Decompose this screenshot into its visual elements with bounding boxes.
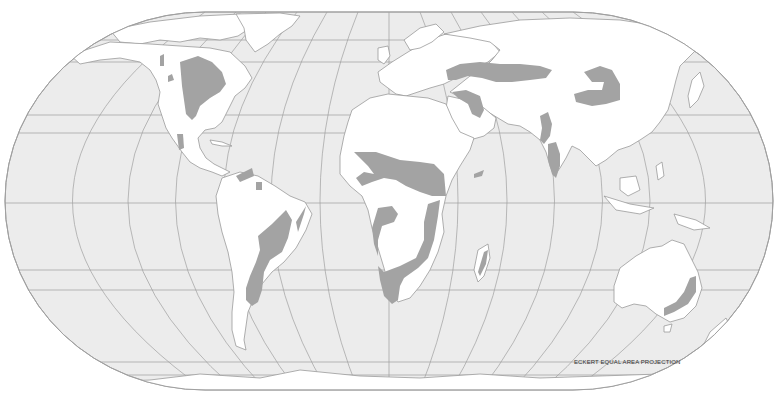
world-map <box>0 0 778 408</box>
projection-label: ECKERT EQUAL AREA PROJECTION <box>574 359 680 365</box>
region-guiana <box>256 182 262 190</box>
region-pacific-coast <box>160 54 164 66</box>
